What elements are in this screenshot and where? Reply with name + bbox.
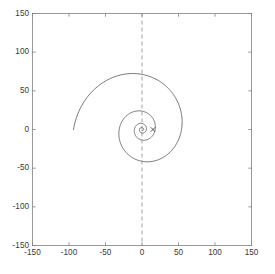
chart-canvas: -150-100-50050100150-150-100-50050100150 — [0, 0, 275, 274]
x-tick-label: 150 — [245, 248, 259, 257]
x-tick-label: 100 — [208, 248, 222, 257]
y-tick-label: 100 — [15, 47, 29, 56]
y-tick-label: -50 — [17, 163, 29, 172]
y-tick-label: -100 — [13, 202, 30, 211]
y-tick-label: 50 — [20, 86, 30, 95]
x-tick-label: -150 — [24, 248, 41, 257]
x-tick-label: -100 — [61, 248, 78, 257]
figure-container: -150-100-50050100150-150-100-50050100150 — [0, 0, 275, 274]
x-tick-label: 50 — [174, 248, 184, 257]
x-tick-label: -50 — [100, 248, 112, 257]
y-tick-label: 150 — [15, 9, 29, 18]
x-tick-label: 0 — [140, 248, 145, 257]
y-tick-label: 0 — [24, 125, 29, 134]
